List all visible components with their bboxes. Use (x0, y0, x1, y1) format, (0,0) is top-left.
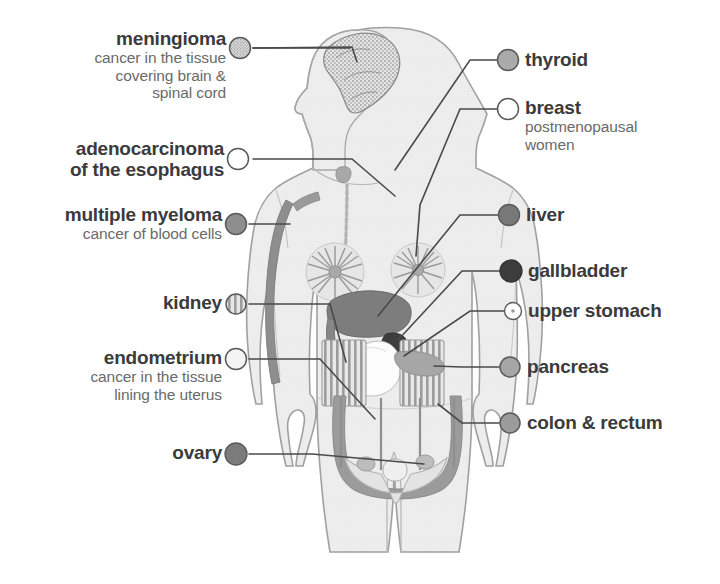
label-pancreas[interactable]: pancreas (527, 356, 609, 377)
label-upper-stomach[interactable]: upper stomach (528, 300, 662, 321)
label-liver-title: liver (526, 204, 564, 225)
label-gallbladder[interactable]: gallbladder (528, 260, 627, 281)
label-breast-sub-2: women (525, 136, 637, 153)
marker-colon-rectum (500, 413, 520, 433)
label-colon-rectum[interactable]: colon & rectum (527, 412, 663, 433)
label-upper-stomach-title: upper stomach (528, 300, 662, 321)
label-thyroid[interactable]: thyroid (525, 49, 588, 70)
marker-endometrium (226, 349, 247, 370)
marker-kidney (226, 294, 246, 314)
label-ovary[interactable]: ovary (172, 442, 222, 463)
label-pancreas-title: pancreas (527, 356, 609, 377)
marker-pancreas (500, 357, 520, 377)
label-adenocarcinoma-esophagus[interactable]: adenocarcinoma of the esophagus (70, 138, 224, 181)
marker-breast (498, 99, 519, 120)
marker-meningioma (230, 38, 251, 59)
label-multiple-myeloma[interactable]: multiple myeloma cancer of blood cells (65, 204, 222, 243)
label-multiple-myeloma-sub-1: cancer of blood cells (65, 225, 222, 242)
label-endometrium-sub-2: lining the uterus (90, 386, 222, 403)
label-ovary-title: ovary (172, 442, 222, 463)
label-kidney[interactable]: kidney (163, 292, 222, 313)
label-kidney-title: kidney (163, 292, 222, 313)
label-adenocarcinoma-title-2: of the esophagus (70, 159, 224, 180)
label-adenocarcinoma-title: adenocarcinoma (70, 138, 224, 159)
label-breast[interactable]: breast postmenopausal women (525, 97, 637, 153)
label-breast-title: breast (525, 97, 637, 118)
label-multiple-myeloma-title: multiple myeloma (65, 204, 222, 225)
ovary-organ-right (416, 455, 434, 469)
marker-upper-stomach-dot (511, 309, 515, 313)
label-gallbladder-title: gallbladder (528, 260, 627, 281)
label-endometrium-sub-1: cancer in the tissue (90, 368, 222, 385)
label-colon-rectum-title: colon & rectum (527, 412, 663, 433)
label-endometrium[interactable]: endometrium cancer in the tissue lining … (90, 347, 222, 403)
marker-thyroid (498, 50, 519, 71)
marker-adenocarcinoma (228, 149, 249, 170)
label-liver[interactable]: liver (526, 204, 564, 225)
label-endometrium-title: endometrium (90, 347, 222, 368)
diagram-canvas: meningioma cancer in the tissue covering… (0, 0, 720, 584)
marker-ovary (225, 443, 247, 465)
marker-liver (499, 205, 520, 226)
marker-gallbladder (500, 260, 522, 282)
label-thyroid-title: thyroid (525, 49, 588, 70)
label-meningioma-sub-2: covering brain & (94, 67, 226, 84)
label-meningioma-sub-3: spinal cord (94, 84, 226, 101)
label-meningioma-sub-1: cancer in the tissue (94, 49, 226, 66)
thyroid-organ (336, 167, 351, 183)
label-meningioma-title: meningioma (94, 28, 226, 49)
label-breast-sub-1: postmenopausal (525, 118, 637, 135)
label-meningioma[interactable]: meningioma cancer in the tissue covering… (94, 28, 226, 101)
marker-multiple-myeloma (226, 214, 247, 235)
